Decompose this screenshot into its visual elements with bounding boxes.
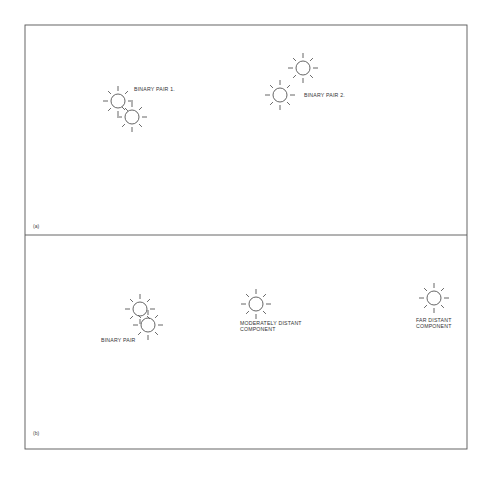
star-icon bbox=[265, 80, 295, 110]
panel-a-tag: (a) bbox=[33, 223, 39, 229]
star-icon bbox=[133, 310, 163, 340]
panel-b-tag: (b) bbox=[33, 430, 39, 436]
star-icon bbox=[103, 86, 133, 116]
panel-a bbox=[103, 53, 318, 132]
star-icon bbox=[125, 294, 155, 324]
label-far-distant-2: COMPONENT bbox=[416, 323, 452, 329]
label-moderately-distant-2: COMPONENT bbox=[240, 326, 276, 332]
label-binary-pair-1: BINARY PAIR 1. bbox=[134, 86, 175, 92]
label-binary-pair: BINARY PAIR bbox=[101, 337, 136, 343]
star-icon bbox=[117, 102, 147, 132]
panel-b bbox=[125, 283, 449, 340]
star-icon bbox=[288, 53, 318, 83]
label-binary-pair-2: BINARY PAIR 2. bbox=[304, 92, 345, 98]
star-icon bbox=[419, 283, 449, 313]
star-icon bbox=[241, 289, 271, 319]
binary-star-diagram: (a) (b) BINARY PAIR 1. BINARY PAIR 2. BI… bbox=[0, 0, 490, 480]
figure-frame bbox=[25, 25, 467, 449]
